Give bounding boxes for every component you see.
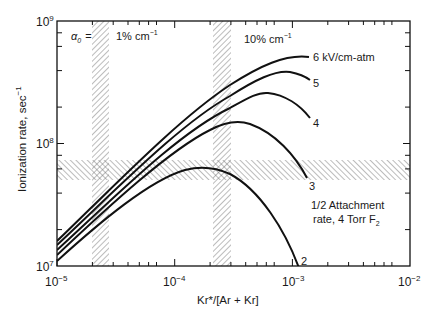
y-tick-1e7: 107 <box>36 259 54 274</box>
x-tick-1e-5: 10−5 <box>45 274 68 289</box>
x-tick-1e-4: 10−4 <box>163 274 186 289</box>
band-10pct-label: 10% cm−1 <box>244 32 292 45</box>
y-axis-title: Ionization rate, sec−1 <box>14 86 28 192</box>
curve-4-label: 4 <box>313 117 319 129</box>
y-tick-1e9: 109 <box>36 14 54 29</box>
y-tick-1e8: 108 <box>36 136 54 151</box>
ionization-rate-chart: 109 108 107 10−5 10−4 10−3 10−2 Kr*/[Ar … <box>0 0 439 320</box>
alpha-label: α0= <box>71 30 92 44</box>
band-10pct <box>213 21 231 266</box>
x-tick-1e-2: 10−2 <box>398 274 421 289</box>
attachment-label-line2: rate, 4 Torr F2 <box>313 213 380 227</box>
band-1pct-label: 1% cm−1 <box>116 29 158 42</box>
curve-6-label: 6 kV/cm-atm <box>313 51 375 63</box>
attachment-label-line1: 1/2 Attachment <box>311 199 384 211</box>
curve-5-label: 5 <box>313 77 319 89</box>
curve-2-label: 2 <box>301 255 307 267</box>
x-tick-1e-3: 10−3 <box>282 274 305 289</box>
x-axis-title: Kr*/[Ar + Kr] <box>197 294 259 306</box>
curve-3-label: 3 <box>309 180 315 192</box>
